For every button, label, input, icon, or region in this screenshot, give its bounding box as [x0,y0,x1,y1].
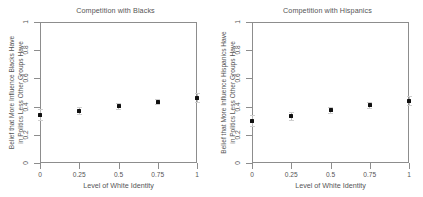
error-bar-cap [289,120,294,121]
panel-title: Competition with Hispanics [238,5,417,17]
x-axis-label: Level of White Identity [40,181,197,190]
x-axis-label: Level of White Identity [252,181,409,190]
error-bar-cap [77,114,82,115]
y-axis-tick-mark [246,22,252,23]
error-bar-cap [289,112,294,113]
y-axis-tick-mark [34,78,40,79]
x-axis-tick-label: 0 [29,170,51,179]
x-axis-tick-label: 1 [186,170,208,179]
error-bar-cap [38,120,43,121]
x-axis-tick-mark [40,163,41,169]
x-axis-tick-label: 0 [241,170,263,179]
x-axis-tick-mark [291,163,292,169]
error-bar-cap [195,93,200,94]
y-axis-label-line-1: Belief that More Influence Hispanics Hav… [220,22,229,163]
x-axis-tick-label: 1 [398,170,420,179]
figure-two-panel-scatter: Competition with Blacks Belief that More… [0,0,423,197]
x-axis-tick-mark [119,163,120,169]
data-point [38,113,42,117]
x-axis-tick-label: 0.75 [147,170,169,179]
data-point [77,109,81,113]
data-point [195,96,199,100]
x-axis-tick-label: 0.5 [320,170,342,179]
y-axis-tick-label: 0.2 [234,127,242,143]
panel-competition-with-blacks: Competition with Blacks Belief that More… [0,0,211,197]
error-bar-cap [367,108,372,109]
error-bar-cap [116,109,121,110]
y-axis-tick-label: 0.2 [22,127,30,143]
data-point [250,119,254,123]
y-axis-label-line-1: Belief that More Influence Blacks Have [8,22,17,163]
plot-area [252,22,409,163]
y-axis-tick-mark [34,135,40,136]
y-axis-tick-label: 0 [234,155,242,171]
y-axis-tick-mark [34,22,40,23]
y-axis-tick-mark [34,107,40,108]
error-bar-cap [77,107,82,108]
y-axis-tick-mark [34,50,40,51]
y-axis-tick-label: 1 [234,14,242,30]
error-bar-cap [250,115,255,116]
y-axis-tick-mark [246,78,252,79]
y-axis-tick-label: 0.6 [234,70,242,86]
y-axis-tick-label: 0 [22,155,30,171]
panel-title: Competition with Blacks [26,5,205,17]
y-axis-tick-label: 0.8 [234,42,242,58]
y-axis-tick-label: 0.8 [22,42,30,58]
x-axis-tick-mark [409,163,410,169]
error-bar-cap [38,109,43,110]
y-axis-tick-label: 0.6 [22,70,30,86]
y-axis-tick-label: 0.4 [22,99,30,115]
x-axis-tick-mark [197,163,198,169]
y-axis-tick-mark [246,107,252,108]
x-axis-tick-mark [79,163,80,169]
data-point [368,103,372,107]
error-bar-cap [195,102,200,103]
y-axis-tick-label: 0.4 [234,99,242,115]
error-bar-cap [155,104,160,105]
error-bar-cap [328,113,333,114]
x-axis-tick-mark [331,163,332,169]
x-axis-tick-mark [370,163,371,169]
y-axis-tick-label: 1 [22,14,30,30]
y-axis-tick-mark [246,135,252,136]
error-bar-cap [407,96,412,97]
x-axis-tick-mark [252,163,253,169]
x-axis-tick-label: 0.75 [359,170,381,179]
error-bar-cap [407,105,412,106]
panel-competition-with-hispanics: Competition with Hispanics Belief that M… [212,0,423,197]
data-point [117,104,121,108]
x-axis-tick-label: 0.25 [280,170,302,179]
x-axis-tick-mark [158,163,159,169]
x-axis-tick-label: 0.25 [68,170,90,179]
data-point [329,108,333,112]
y-axis-tick-mark [246,50,252,51]
data-point [407,99,411,103]
error-bar-cap [250,126,255,127]
data-point [289,114,293,118]
x-axis-tick-label: 0.5 [108,170,130,179]
plot-area [40,22,197,163]
data-point [156,100,160,104]
